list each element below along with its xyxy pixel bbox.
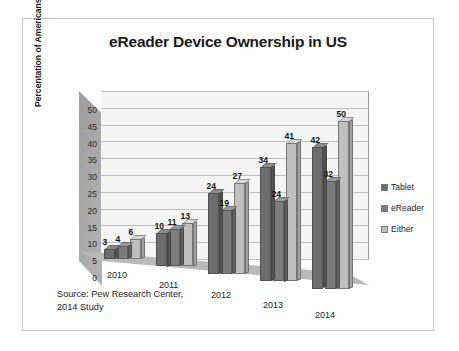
data-label-2010-ereader: 4 (116, 234, 121, 244)
y-tick-label: 5 (81, 256, 97, 266)
data-label-2013-ereader: 24 (272, 189, 282, 199)
data-label-2011-tablet: 10 (155, 221, 165, 231)
bar-side-face (323, 146, 327, 289)
plot-area: 05101520253035404550 3461011132419273424… (79, 91, 369, 286)
bar-2010-tablet (104, 249, 115, 259)
y-tick-label: 0 (81, 273, 97, 283)
bar-side-face (180, 228, 184, 267)
y-tick-label: 45 (81, 122, 97, 132)
data-label-2010-either: 6 (129, 227, 134, 237)
bar-side-face (284, 199, 288, 281)
legend-label: Either (391, 224, 413, 234)
chart-title: eReader Device Ownership in US (23, 33, 433, 51)
legend-label: Tablet (391, 182, 414, 192)
y-tick-label: 35 (81, 155, 97, 165)
bar-front-face (104, 249, 115, 259)
x-tick-label-2013: 2013 (263, 300, 283, 310)
y-tick-label: 10 (81, 239, 97, 249)
data-label-2014-ereader: 32 (324, 169, 334, 179)
bar-2012-tablet (208, 193, 219, 274)
bar-front-face (312, 147, 323, 288)
data-label-2011-either: 13 (181, 211, 191, 221)
bar-side-face (232, 208, 236, 274)
data-label-2014-tablet: 42 (311, 135, 321, 145)
bar-side-face (349, 119, 353, 289)
bar-front-face (208, 193, 219, 274)
bar-2013-tablet (260, 167, 271, 281)
data-label-2010-tablet: 3 (103, 237, 108, 247)
data-label-2012-either: 27 (233, 171, 243, 181)
y-axis-title: Percentation of Americans (33, 0, 43, 107)
bar-side-face (336, 179, 340, 288)
bar-side-face (167, 231, 171, 266)
y-tick-label: 25 (81, 189, 97, 199)
legend-swatch-icon (381, 226, 388, 233)
x-tick-label-2010: 2010 (107, 270, 127, 280)
bar-side-face (271, 165, 275, 281)
data-label-2014-either: 50 (337, 109, 347, 119)
data-label-2012-ereader: 19 (220, 198, 230, 208)
bar-side-face (297, 142, 301, 282)
gridline (101, 158, 369, 159)
source-note: Source: Pew Research Center, 2014 Study (57, 288, 183, 314)
data-label-2013-either: 41 (285, 131, 295, 141)
slide-canvas: eReader Device Ownership in US Percentat… (22, 18, 434, 331)
bar-side-face (193, 221, 197, 266)
bar-2011-tablet (156, 233, 167, 267)
gridline (101, 108, 369, 109)
x-tick-label-2012: 2012 (211, 290, 231, 300)
bar-front-face (156, 233, 167, 267)
y-tick-label: 40 (81, 139, 97, 149)
legend-swatch-icon (381, 205, 388, 212)
y-tick-label: 50 (81, 105, 97, 115)
bar-side-face (128, 244, 132, 259)
gridline (101, 91, 369, 92)
legend-swatch-icon (381, 184, 388, 191)
legend-label: eReader (391, 203, 424, 213)
bar-side-face (115, 247, 119, 259)
data-label-2011-ereader: 11 (168, 217, 177, 227)
bar-2014-tablet (312, 147, 323, 288)
x-tick-label-2014: 2014 (315, 310, 335, 320)
y-tick-label: 15 (81, 223, 97, 233)
legend-item-tablet[interactable]: Tablet (381, 182, 441, 192)
data-label-2013-tablet: 34 (259, 155, 269, 165)
gridline (101, 125, 369, 126)
bar-front-face (260, 167, 271, 281)
data-label-2012-tablet: 24 (207, 181, 217, 191)
legend-item-ereader[interactable]: eReader (381, 203, 441, 213)
bar-side-face (141, 237, 145, 259)
bar-side-face (245, 181, 249, 273)
y-tick-label: 20 (81, 206, 97, 216)
chart-legend: TableteReaderEither (381, 182, 441, 245)
legend-item-either[interactable]: Either (381, 224, 441, 234)
y-tick-label: 30 (81, 172, 97, 182)
